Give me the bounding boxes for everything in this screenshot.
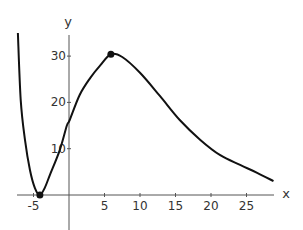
x-tick-label: 25 <box>239 199 254 213</box>
critical-points <box>36 51 114 199</box>
y-tick-label: 20 <box>51 95 66 109</box>
local-maximum-point <box>107 51 114 58</box>
y-axis-label: y <box>64 14 72 29</box>
y-tick-label: 30 <box>51 49 66 63</box>
x-axis-label: x <box>282 186 290 201</box>
local-minimum-point <box>36 192 43 199</box>
x-tick-label: 5 <box>101 199 109 213</box>
x-tick-label: -5 <box>28 199 40 213</box>
x-tick-label: 10 <box>132 199 147 213</box>
x-tick-label: 15 <box>168 199 183 213</box>
function-plot: -5510152025102030 xy <box>0 0 303 230</box>
x-tick-label: 20 <box>203 199 218 213</box>
